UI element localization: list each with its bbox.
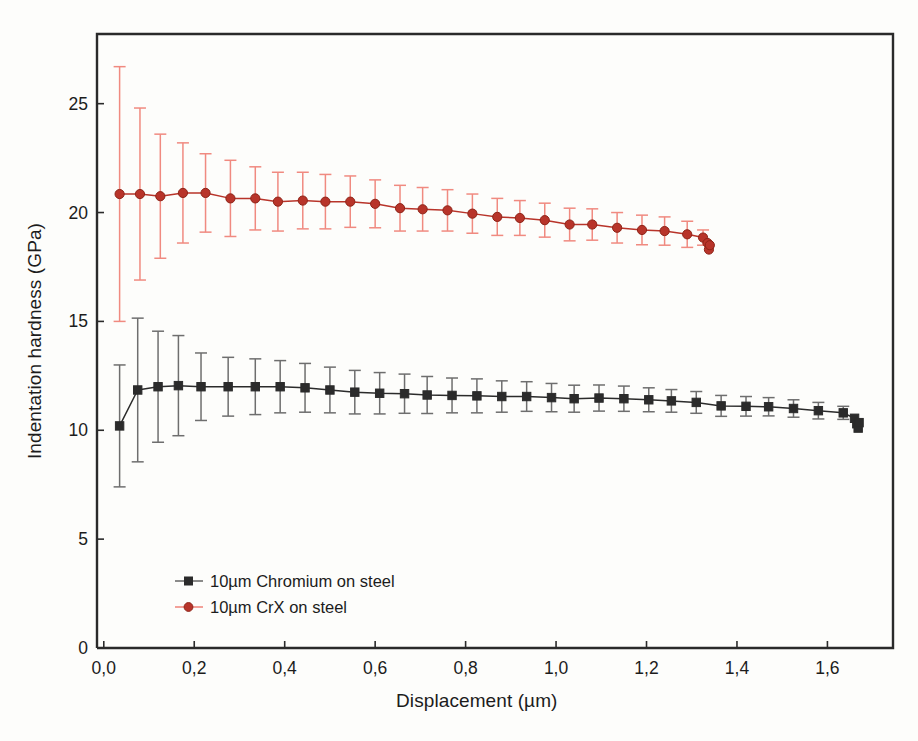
y-tick-label: 10 (40, 420, 88, 441)
x-axis-title: Displacement (µm) (396, 690, 558, 712)
y-tick-label: 5 (40, 529, 88, 550)
y-axis-title: Indentation hardness (GPa) (24, 176, 46, 506)
x-tick-label: 0,4 (273, 658, 297, 679)
y-tick-label: 15 (40, 311, 88, 332)
plot-canvas (0, 0, 918, 741)
x-tick-label: 1,0 (544, 658, 568, 679)
x-tick-label: 1,4 (725, 658, 749, 679)
y-tick-label: 20 (40, 202, 88, 223)
y-tick-label: 0 (40, 638, 88, 659)
legend-item-chromium-on-steel: 10µm Chromium on steel (210, 572, 395, 591)
legend-markers (175, 577, 203, 611)
y-tick-label: 25 (40, 93, 88, 114)
x-tick-label: 0,0 (92, 658, 116, 679)
series-chromium-on-steel (114, 318, 864, 487)
x-tick-label: 0,2 (182, 658, 206, 679)
x-tick-label: 0,6 (363, 658, 387, 679)
plot-frame (97, 34, 893, 648)
series-crx-on-steel (114, 67, 715, 322)
chart-figure: Displacement (µm) Indentation hardness (… (0, 0, 918, 741)
legend-item-crx-on-steel: 10µm CrX on steel (210, 598, 347, 617)
x-tick-label: 1,2 (634, 658, 658, 679)
x-tick-label: 1,6 (815, 658, 839, 679)
x-tick-label: 0,8 (453, 658, 477, 679)
